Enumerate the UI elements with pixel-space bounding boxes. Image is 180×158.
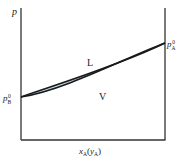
pB0-label: pB0 [2, 93, 12, 105]
pA0-label: pA0 [166, 39, 176, 51]
liquid-region-label: L [87, 57, 93, 68]
y-axis-label: p [11, 6, 17, 17]
phase-diagram: p pB0 pA0 L V xA(yA) [0, 0, 180, 158]
vapor-region-label: V [99, 91, 107, 102]
x-axis-label: xA(yA) [78, 146, 101, 157]
